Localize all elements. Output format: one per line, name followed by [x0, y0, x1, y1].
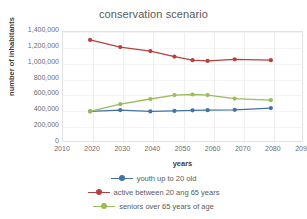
- legend-item[interactable]: active between 20 ang 65 years: [88, 186, 220, 198]
- legend-label: youth up to 20 old: [137, 174, 197, 183]
- data-point-marker: [233, 57, 237, 61]
- legend-swatch-icon: [88, 187, 110, 197]
- legend-item[interactable]: seniors over 65 years of age: [93, 200, 214, 212]
- y-axis-tick-label: 800,000: [3, 74, 59, 81]
- series-line: [90, 94, 271, 111]
- data-point-marker: [88, 109, 92, 113]
- y-axis-tick-label: 200,000: [3, 121, 59, 128]
- data-point-marker: [172, 93, 176, 97]
- x-axis-tick-label: 2090: [283, 145, 307, 152]
- data-point-marker: [206, 93, 210, 97]
- legend-label: seniors over 65 years of age: [119, 202, 214, 211]
- plot-area: [62, 31, 303, 142]
- y-axis-tick-label: 1,000,000: [3, 58, 59, 65]
- data-point-marker: [269, 58, 273, 62]
- data-point-marker: [233, 97, 237, 101]
- y-axis-tick-label: 400,000: [3, 105, 59, 112]
- data-point-marker: [172, 109, 176, 113]
- series-line: [90, 108, 271, 111]
- data-point-marker: [206, 59, 210, 63]
- y-axis-tick-label: 0: [3, 137, 59, 144]
- chart-title: conservation scenario: [0, 8, 307, 20]
- data-point-marker: [172, 54, 176, 58]
- data-point-marker: [148, 97, 152, 101]
- data-point-marker: [190, 92, 194, 96]
- legend-swatch-icon: [93, 201, 115, 211]
- chart-container: conservation scenario number of inhabita…: [0, 0, 307, 219]
- legend-item[interactable]: youth up to 20 old: [111, 172, 197, 184]
- series-layer: [63, 32, 304, 143]
- data-point-marker: [88, 38, 92, 42]
- y-axis-tick-label: 600,000: [3, 89, 59, 96]
- data-point-marker: [233, 108, 237, 112]
- series-line: [90, 40, 271, 61]
- data-point-marker: [118, 45, 122, 49]
- data-point-marker: [118, 102, 122, 106]
- x-axis-title: years: [62, 159, 303, 168]
- data-point-marker: [269, 98, 273, 102]
- legend-swatch-icon: [111, 173, 133, 183]
- x-axis-tick-labels: 201020202030204020502060207020802090: [62, 145, 303, 157]
- chart-legend: youth up to 20 oldactive between 20 ang …: [0, 172, 307, 212]
- y-axis-tick-label: 1,200,000: [3, 42, 59, 49]
- legend-label: active between 20 ang 65 years: [114, 188, 220, 197]
- data-point-marker: [148, 109, 152, 113]
- y-axis-tick-label: 1,400,000: [3, 26, 59, 33]
- data-point-marker: [269, 106, 273, 110]
- y-axis-tick-labels: 0200,000400,000600,000800,0001,000,0001,…: [0, 31, 59, 142]
- data-point-marker: [206, 108, 210, 112]
- data-point-marker: [190, 108, 194, 112]
- data-point-marker: [190, 58, 194, 62]
- data-point-marker: [148, 49, 152, 53]
- data-point-marker: [118, 108, 122, 112]
